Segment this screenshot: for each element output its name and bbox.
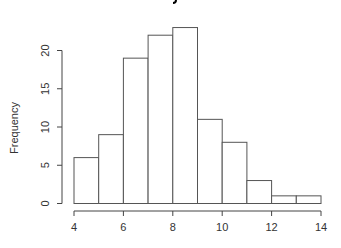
histogram-bars xyxy=(74,28,321,204)
x-tick-label: 14 xyxy=(315,221,327,233)
y-axis: 05101520 xyxy=(39,44,62,206)
histogram-bar xyxy=(272,196,297,204)
histogram-bar xyxy=(173,28,198,204)
histogram-bar xyxy=(148,35,173,203)
x-tick-label: 10 xyxy=(216,221,228,233)
x-tick-label: 6 xyxy=(120,221,126,233)
histogram-bar xyxy=(296,196,321,204)
y-tick-label: 15 xyxy=(39,83,51,95)
x-tick-label: 4 xyxy=(71,221,77,233)
y-tick-label: 10 xyxy=(39,121,51,133)
histogram-bar xyxy=(198,119,223,203)
x-tick-label: 8 xyxy=(170,221,176,233)
x-axis: 468101214 xyxy=(71,211,327,233)
y-tick-label: 5 xyxy=(39,162,51,168)
y-tick-label: 0 xyxy=(39,200,51,206)
histogram-bar xyxy=(247,181,272,204)
histogram-chart: 05101520 468101214 Frequency xyxy=(0,0,341,248)
histogram-bar xyxy=(222,142,247,203)
y-tick-label: 20 xyxy=(39,44,51,56)
histogram-bar xyxy=(99,135,124,204)
histogram-bar xyxy=(74,158,99,204)
y-axis-label: Frequency xyxy=(8,102,20,154)
histogram-bar xyxy=(123,58,148,203)
chart-title-fragment xyxy=(173,0,176,3)
x-tick-label: 12 xyxy=(265,221,277,233)
